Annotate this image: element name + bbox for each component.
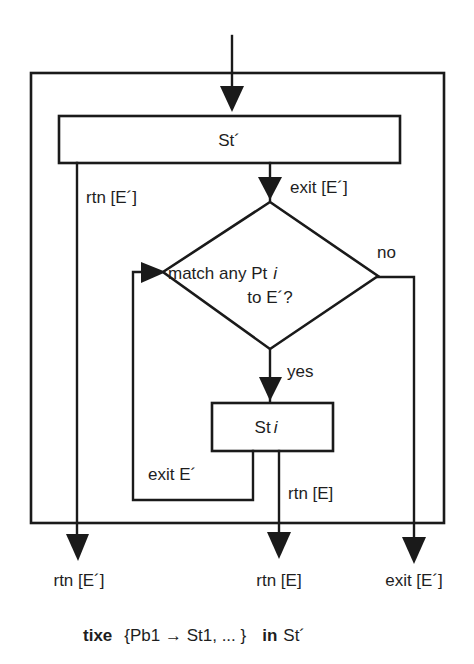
st-i-label: Sti [255,418,279,437]
st-prime-exit-arrowhead-icon [258,177,282,200]
output-right-label: exit [E´] [385,571,443,590]
caption-keyword-in: in [262,626,277,645]
caption-target: St´ [283,626,305,645]
st-i-exit-label: exit E´ [148,465,196,484]
st-prime-label: St´ [218,131,240,150]
output-left-label: rtn [E´] [53,571,104,590]
decision-no-label: no [377,243,396,262]
loop-arrowhead-icon [141,262,166,283]
st-prime-exit-label: exit [E´] [290,178,348,197]
st-prime-rtn-label: rtn [E´] [86,188,137,207]
tixe-flow-diagram: St´ rtn [E´] exit [E´] match any Pti to … [0,0,474,664]
output-left-arrowhead-icon [66,534,89,561]
decision-no-line [378,277,414,540]
decision-line2: to E´? [247,288,292,307]
decision-yes-arrowhead-icon [259,377,282,401]
entry-arrowhead-icon [220,86,244,112]
output-right-arrowhead-icon [402,537,426,564]
decision-line1: match any Pti [168,264,278,283]
caption-body: {Pb1 → St1, ... } [124,626,246,645]
caption-keyword-tixe: tixe [83,626,112,645]
st-i-box [212,403,333,451]
output-middle-arrowhead-icon [267,532,291,559]
caption: tixe{Pb1 → St1, ... }inSt´ [83,626,305,645]
st-i-rtn-label: rtn [E] [288,484,333,503]
decision-yes-label: yes [287,362,313,381]
output-middle-label: rtn [E] [256,571,301,590]
